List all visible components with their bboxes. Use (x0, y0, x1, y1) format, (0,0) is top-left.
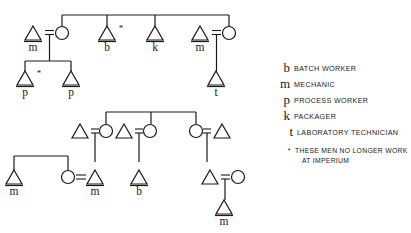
sibling-bar-lower-gen2-left (14, 156, 68, 170)
svg-text:k: k (152, 41, 158, 53)
legend-entry-t: t LABORATORY TECHNICIAN (289, 124, 398, 139)
footnote-line-1: THESE MEN NO LONGER WORK (295, 147, 408, 154)
sibling-bar-lower-gen1 (106, 112, 196, 124)
svg-text:b: b (104, 41, 110, 53)
node-female-lower-sibling-2 (144, 125, 157, 138)
legend-key-m: m (280, 76, 290, 91)
svg-text:m: m (10, 185, 19, 197)
node-male-m-lower-left: m (5, 170, 23, 197)
marriage-link-upper-1 (45, 31, 54, 35)
node-male-lower-husband-1 (72, 124, 88, 138)
legend-desc-m: MECHANIC (294, 80, 335, 89)
node-male-p: p (62, 71, 80, 99)
legend-entry-m: m MECHANIC (280, 76, 335, 91)
legend-key-t: t (289, 124, 293, 139)
svg-text:p: p (22, 86, 28, 99)
node-female-lower-sibling-3 (190, 125, 203, 138)
node-male-lower-husband-3 (214, 124, 230, 138)
node-male-lower-husband-2 (116, 124, 132, 138)
node-male-m-upper-left: m (24, 26, 42, 53)
marriage-link-lower-3 (203, 129, 211, 133)
node-female-lower-sibling-1 (100, 125, 113, 138)
kinship-diagram-canvas: m p * p (0, 0, 411, 233)
svg-text:*: * (37, 68, 42, 78)
marriage-link-lower-1 (91, 129, 99, 133)
marriage-link-lower-5 (221, 175, 230, 179)
svg-text:t: t (214, 86, 218, 98)
footnote-line-2: AT IMPERIUM (302, 157, 349, 164)
node-female-lower-wife-left (62, 171, 75, 184)
svg-text:b: b (136, 185, 142, 197)
svg-text:m: m (220, 215, 229, 227)
node-male-p-star: p * (16, 68, 42, 99)
svg-text:m: m (29, 41, 38, 53)
node-male-m-upper-right: m (191, 26, 209, 53)
legend-footnote: * THESE MEN NO LONGER WORK AT IMPERIUM (288, 147, 408, 164)
upper-family-tree: m p * p (16, 15, 236, 99)
legend-key-b: b (284, 60, 291, 75)
svg-text:m: m (196, 41, 205, 53)
lower-family-tree: m m b (5, 112, 245, 227)
marriage-link-upper-2 (212, 31, 221, 35)
node-male-b-lower: b (130, 170, 148, 197)
node-male-t: t (207, 71, 225, 98)
node-male-b-star: b * (98, 23, 124, 53)
sibling-bar-upper-gen1 (62, 15, 229, 26)
legend-entry-b: b BATCH WORKER (284, 60, 357, 75)
asterisk-icon: * (288, 147, 291, 154)
node-male-k: k (146, 26, 164, 53)
svg-text:*: * (119, 23, 124, 33)
marriage-link-lower-2 (135, 129, 143, 133)
legend-key-k: k (284, 108, 291, 123)
legend-key-p: p (284, 92, 291, 107)
svg-text:p: p (68, 86, 74, 99)
node-male-m-lower-center: m (86, 170, 104, 197)
svg-text:m: m (91, 185, 100, 197)
node-female-wife-upper-right (223, 27, 236, 40)
legend-desc-b: BATCH WORKER (294, 64, 356, 73)
legend-desc-t: LABORATORY TECHNICIAN (297, 128, 398, 137)
legend-entry-k: k PACKAGER (284, 108, 337, 123)
node-female-lower-wife-right (232, 171, 245, 184)
legend-entry-p: p PROCESS WORKER (284, 92, 369, 107)
legend: b BATCH WORKER m MECHANIC p PROCESS WORK… (280, 60, 408, 164)
node-female-wife-upper-left (56, 27, 69, 40)
legend-desc-p: PROCESS WORKER (294, 96, 368, 105)
node-male-m-lower-bottom: m (215, 200, 233, 227)
legend-desc-k: PACKAGER (294, 112, 336, 121)
node-male-lower-son (202, 170, 218, 184)
marriage-link-lower-4 (76, 175, 86, 179)
